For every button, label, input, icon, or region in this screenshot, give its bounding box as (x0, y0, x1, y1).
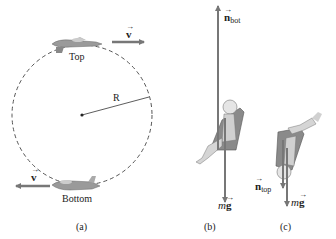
normal-force-top-label: ntop (255, 181, 271, 194)
velocity-label-bottom: v (31, 172, 37, 183)
diagram-svg (0, 0, 336, 239)
velocity-label-top: v (126, 29, 132, 40)
caption-a: (a) (76, 222, 87, 232)
plane-bottom-icon (52, 176, 100, 190)
radius-label: R (113, 93, 120, 103)
pilot-bottom-figure (196, 100, 244, 164)
bottom-label: Bottom (62, 194, 92, 204)
caption-b: (b) (204, 222, 216, 232)
weight-top-label: mg (291, 197, 304, 208)
top-label: Top (69, 52, 84, 62)
caption-c: (c) (280, 222, 291, 232)
figure: v Top R v Bottom (a) nbot mg (b) ntop mg… (0, 0, 336, 239)
normal-force-bottom-label: nbot (224, 12, 240, 25)
weight-bottom-label: mg (218, 200, 231, 211)
